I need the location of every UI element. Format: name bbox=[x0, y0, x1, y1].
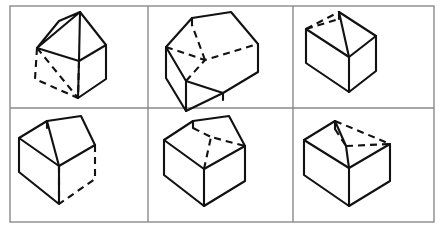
panel-4-solid-edges bbox=[19, 116, 95, 204]
panel-6-hidden-edges bbox=[335, 121, 390, 146]
box-orientation-figure bbox=[0, 0, 441, 231]
panel-5-solid-edges bbox=[164, 116, 245, 206]
panel-3-hidden-edges bbox=[306, 12, 339, 29]
panel-4-hidden-edges bbox=[59, 145, 95, 204]
panel-2-solid-edges bbox=[166, 12, 258, 111]
figure-canvas bbox=[0, 0, 441, 231]
panel-4-box bbox=[19, 116, 95, 204]
outer-frame bbox=[10, 6, 434, 222]
panel-1-box bbox=[35, 12, 106, 98]
panel-1-hidden-edges bbox=[35, 48, 79, 98]
panel-5-box bbox=[164, 116, 245, 206]
panel-6-box bbox=[304, 121, 390, 206]
panel-3-solid-edges bbox=[306, 12, 376, 92]
panel-5-hidden-edges bbox=[193, 128, 245, 169]
grid-frame bbox=[10, 6, 434, 222]
panel-6-solid-edges bbox=[304, 121, 390, 206]
panel-3-box bbox=[306, 12, 376, 92]
panel-2-box bbox=[166, 12, 258, 111]
panel-1-solid-edges bbox=[37, 12, 106, 98]
panel-2-hidden-edges bbox=[166, 25, 258, 81]
